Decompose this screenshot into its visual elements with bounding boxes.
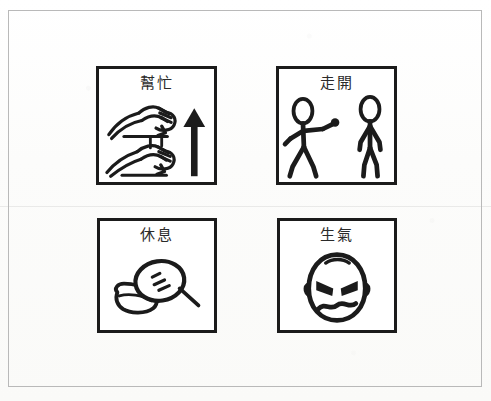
standing-stick-figure: [360, 97, 381, 176]
card-rest-artwork: [100, 247, 214, 328]
communication-card-sheet: 幫忙: [0, 0, 491, 401]
neck-stroke: [180, 288, 199, 305]
card-help-label: 幫忙: [99, 73, 214, 93]
card-help-artwork: [99, 95, 214, 180]
upper-hand-fist: [109, 107, 175, 139]
upward-arrow: [183, 108, 205, 176]
card-angry-label: 生氣: [280, 225, 394, 245]
lower-hand-fist: [107, 146, 174, 177]
card-rest[interactable]: 休息: [97, 218, 217, 333]
walking-stick-figure-pointing: [285, 99, 339, 176]
sleeping-head: [133, 258, 187, 304]
card-go-away[interactable]: 走開: [276, 66, 397, 185]
card-angry[interactable]: 生氣: [277, 218, 397, 333]
card-help[interactable]: 幫忙: [96, 66, 217, 185]
card-go-away-artwork: [279, 95, 394, 180]
page-border-frame: [8, 10, 482, 387]
card-rest-label: 休息: [100, 225, 214, 245]
card-go-away-label: 走開: [279, 73, 394, 93]
card-angry-artwork: [280, 247, 394, 328]
